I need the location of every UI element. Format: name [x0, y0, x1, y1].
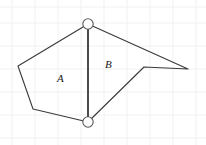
bottom-node-marker[interactable]	[83, 117, 93, 127]
region-b-label: B	[105, 59, 112, 70]
region-a-label: A	[57, 73, 64, 84]
figure-container: A B	[0, 0, 206, 145]
polygon-diagram	[0, 0, 206, 145]
region-a-polygon	[18, 24, 88, 122]
grid-vertical-lines	[12, 0, 196, 145]
grid-horizontal-lines	[0, 7, 206, 138]
top-node-marker[interactable]	[83, 19, 93, 29]
grid-layer	[0, 0, 206, 145]
